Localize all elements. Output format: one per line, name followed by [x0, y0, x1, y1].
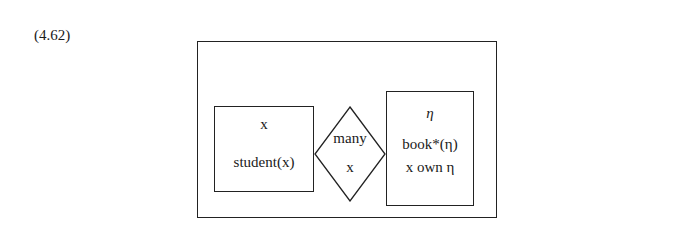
quantifier-label: many — [313, 131, 387, 146]
scope-condition-1: book*(η) — [387, 137, 473, 152]
duplex-quantifier-diamond — [313, 106, 387, 202]
restrictor-box: x student(x) — [214, 106, 314, 192]
equation-number: (4.62) — [34, 27, 70, 44]
restrictor-condition: student(x) — [215, 155, 313, 170]
restrictor-referent: x — [215, 117, 313, 132]
scope-referent: η — [387, 106, 473, 121]
scope-condition-2: x own η — [387, 160, 473, 175]
quantifier-variable: x — [313, 160, 387, 175]
scope-box: η book*(η) x own η — [386, 91, 474, 206]
